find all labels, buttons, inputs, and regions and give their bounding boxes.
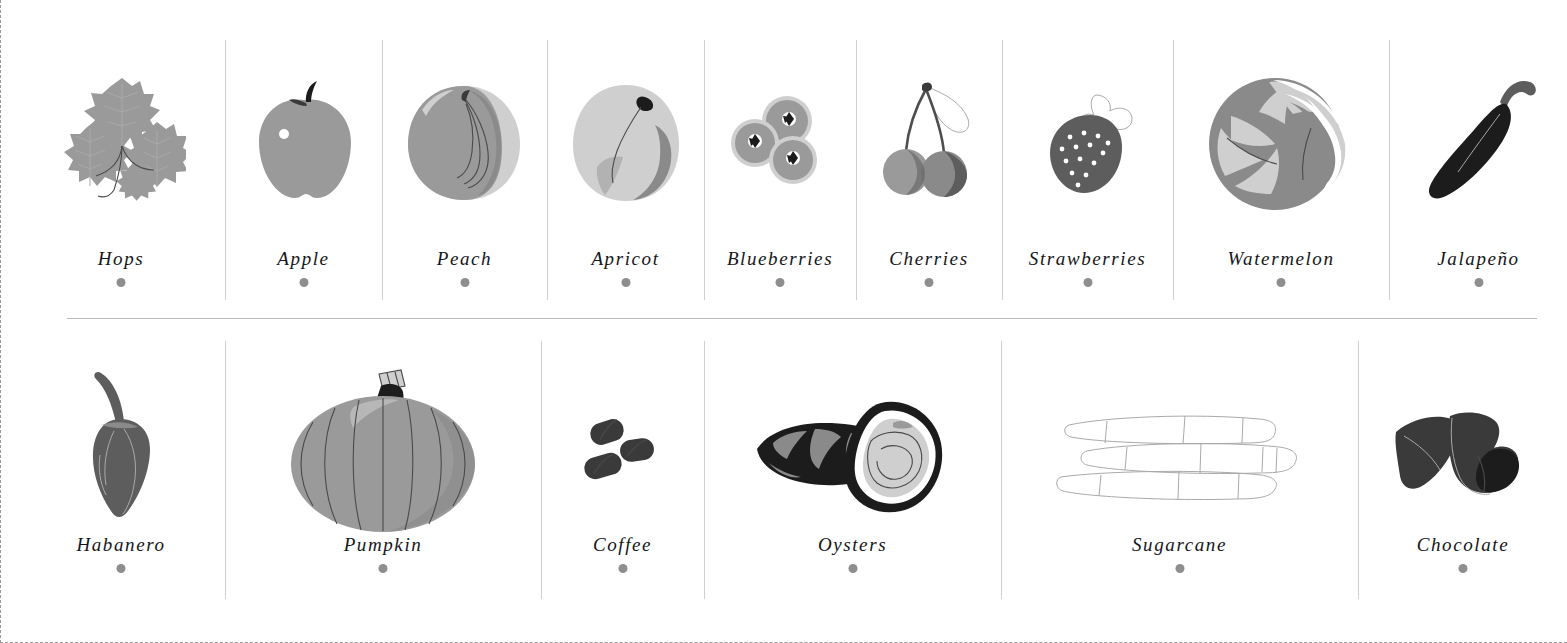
cherries-art (856, 58, 1002, 228)
top-row: Hops Apple (1, 0, 1567, 318)
oysters-icon (745, 379, 960, 529)
hops-icon (56, 68, 186, 218)
panel-oysters[interactable]: Oysters (704, 319, 1001, 643)
apple-icon (249, 76, 359, 211)
watermelon-art (1173, 58, 1389, 228)
panel-dot (1083, 278, 1092, 287)
hops-art (17, 58, 225, 228)
panel-dot (618, 564, 627, 573)
panel-dot (379, 564, 388, 573)
coffee-art (541, 359, 704, 549)
panel-jalapeno[interactable]: Jalapeño (1389, 0, 1567, 318)
panel-dot (1459, 564, 1468, 573)
panel-habanero[interactable]: Habanero (17, 319, 225, 643)
strawberries-icon (1028, 81, 1148, 206)
habanero-icon (66, 367, 176, 542)
pumpkin-icon (283, 364, 483, 544)
panel-apple[interactable]: Apple (225, 0, 382, 318)
ingredient-grid-figure: Hops Apple (0, 0, 1567, 643)
panel-blueberries[interactable]: Blueberries (704, 0, 856, 318)
panel-label: Peach (382, 248, 547, 270)
panel-hops[interactable]: Hops (17, 0, 225, 318)
jalapeno-art (1389, 58, 1567, 228)
panel-label: Apple (225, 248, 382, 270)
panel-label: Sugarcane (1001, 534, 1358, 556)
panel-pumpkin[interactable]: Pumpkin (225, 319, 541, 643)
panel-label: Watermelon (1173, 248, 1389, 270)
chocolate-art (1358, 359, 1567, 549)
panel-label: Blueberries (704, 248, 856, 270)
panel-label: Hops (17, 248, 225, 270)
panel-coffee[interactable]: Coffee (541, 319, 704, 643)
panel-peach[interactable]: Peach (382, 0, 547, 318)
oysters-art (704, 359, 1001, 549)
panel-dot (776, 278, 785, 287)
panel-label: Strawberries (1002, 248, 1173, 270)
pumpkin-art (225, 359, 541, 549)
bottom-row: Habanero (1, 319, 1567, 643)
chocolate-icon (1388, 394, 1538, 514)
apple-art (225, 58, 382, 228)
panel-apricot[interactable]: Apricot (547, 0, 704, 318)
panel-dot (1175, 564, 1184, 573)
watermelon-icon (1201, 68, 1361, 218)
panel-chocolate[interactable]: Chocolate (1358, 319, 1567, 643)
panel-label: Pumpkin (225, 534, 541, 556)
panel-label: Apricot (547, 248, 704, 270)
apricot-icon (567, 79, 685, 207)
panel-label: Jalapeño (1389, 248, 1567, 270)
apricot-art (547, 58, 704, 228)
jalapeno-icon (1414, 68, 1544, 218)
panel-dot (848, 564, 857, 573)
panel-label: Cherries (856, 248, 1002, 270)
panel-label: Coffee (541, 534, 704, 556)
peach-icon (402, 78, 527, 208)
blueberries-art (704, 58, 856, 228)
panel-dot (1277, 278, 1286, 287)
panel-dot (299, 278, 308, 287)
cherries-icon (872, 73, 987, 213)
coffee-icon (568, 399, 678, 509)
peach-art (382, 58, 547, 228)
panel-cherries[interactable]: Cherries (856, 0, 1002, 318)
panel-sugarcane[interactable]: Sugarcane (1001, 319, 1358, 643)
panel-label: Oysters (704, 534, 1001, 556)
panel-strawberries[interactable]: Strawberries (1002, 0, 1173, 318)
panel-dot (117, 564, 126, 573)
panel-dot (117, 278, 126, 287)
panel-watermelon[interactable]: Watermelon (1173, 0, 1389, 318)
panel-label: Habanero (17, 534, 225, 556)
panel-label: Chocolate (1358, 534, 1567, 556)
panel-dot (621, 278, 630, 287)
sugarcane-icon (1045, 389, 1315, 519)
panel-dot (460, 278, 469, 287)
panel-dot (925, 278, 934, 287)
blueberries-icon (725, 88, 835, 198)
sugarcane-art (1001, 359, 1358, 549)
habanero-art (17, 359, 225, 549)
strawberries-art (1002, 58, 1173, 228)
panel-dot (1474, 278, 1483, 287)
